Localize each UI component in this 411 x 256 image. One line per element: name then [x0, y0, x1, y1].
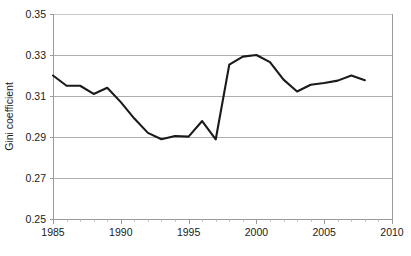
- x-tick-label-1995: 1995: [177, 226, 201, 238]
- y-tick-label-0.27: 0.27: [26, 172, 47, 184]
- x-tick-label-2000: 2000: [245, 226, 269, 238]
- y-tick-label-0.25: 0.25: [26, 213, 47, 225]
- chart-background: [0, 0, 411, 256]
- x-tick-label-1990: 1990: [109, 226, 133, 238]
- x-tick-label-1985: 1985: [41, 226, 65, 238]
- y-tick-label-0.29: 0.29: [26, 131, 47, 143]
- y-tick-label-0.31: 0.31: [26, 90, 47, 102]
- y-axis-title: Gini coefficient: [3, 82, 15, 151]
- y-tick-label-0.33: 0.33: [26, 49, 47, 61]
- gini-coefficient-line-chart: 0.250.270.290.310.330.35 198519901995200…: [0, 0, 411, 256]
- x-tick-label-2010: 2010: [380, 226, 404, 238]
- chart-svg: 0.250.270.290.310.330.35 198519901995200…: [0, 0, 411, 256]
- y-tick-label-0.35: 0.35: [26, 8, 47, 20]
- x-tick-label-2005: 2005: [313, 226, 337, 238]
